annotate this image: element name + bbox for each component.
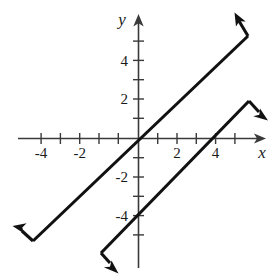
y-axis-label: y: [116, 10, 126, 29]
x-tick-label: -4: [35, 145, 48, 161]
y-tick-label: -4: [116, 208, 129, 224]
x-tick-label: -2: [73, 145, 86, 161]
graph-canvas: -4 -2 2 4 4 2 -2 -4 y x: [0, 0, 275, 279]
line-1-end-hook-upper: [239, 21, 248, 36]
y-tick-label: 2: [121, 91, 129, 107]
y-tick-label: -2: [116, 169, 129, 185]
line-2-end-hook-upper: [249, 101, 259, 112]
line-series-2: [101, 101, 268, 274]
x-tick-label: 4: [212, 145, 220, 161]
coordinate-graph-figure: -4 -2 2 4 4 2 -2 -4 y x: [0, 0, 275, 279]
line-2-end-hook-lower: [101, 253, 110, 263]
line-series-1: [13, 13, 249, 242]
x-tick-label: 2: [173, 145, 181, 161]
line-2-arrow-lower-left-icon: [104, 261, 119, 274]
x-axis-label: x: [257, 143, 266, 162]
y-tick-label: 4: [121, 53, 129, 69]
